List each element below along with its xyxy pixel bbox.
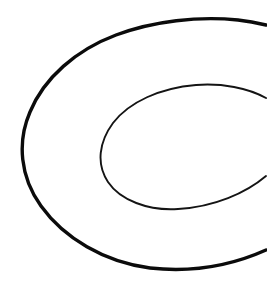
- nested-c-curves-figure: [0, 0, 267, 285]
- canvas-background: [0, 0, 267, 285]
- drawing-canvas: [0, 0, 267, 285]
